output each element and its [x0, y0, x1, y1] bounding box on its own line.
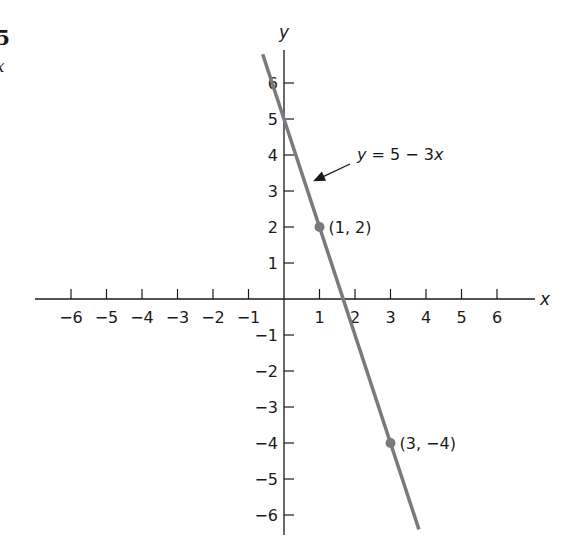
- y-tick-label: 4: [268, 146, 278, 165]
- y-tick-label: −2: [254, 362, 278, 381]
- annotation-arrow-shaft: [321, 164, 350, 178]
- data-series: [263, 54, 419, 529]
- y-tick-label: 1: [268, 254, 278, 273]
- data-point-label: (1, 2): [329, 218, 372, 237]
- x-tick-label: 1: [314, 308, 324, 327]
- data-points: (1, 2)(3, −4): [315, 218, 456, 453]
- data-point: [386, 438, 396, 448]
- x-tick-label: −2: [201, 308, 225, 327]
- x-axis-ticks: −6−5−4−3−2−1123456: [59, 289, 502, 327]
- y-tick-label: −4: [254, 434, 278, 453]
- x-tick-label: −4: [130, 308, 154, 327]
- y-tick-label: 2: [268, 218, 278, 237]
- y-tick-label: −5: [254, 470, 278, 489]
- y-tick-label: 3: [268, 182, 278, 201]
- y-tick-label: 5: [268, 110, 278, 129]
- x-tick-label: −6: [59, 308, 83, 327]
- y-tick-label: −3: [254, 398, 278, 417]
- x-tick-label: 5: [456, 308, 466, 327]
- data-point: [315, 222, 325, 232]
- x-tick-label: 4: [421, 308, 431, 327]
- line-chart: xy −6−5−4−3−2−1123456 654321−1−2−3−4−5−6…: [0, 0, 575, 560]
- x-tick-label: −3: [166, 308, 190, 327]
- axes: xy: [35, 22, 551, 535]
- equation-label: y = 5 − 3x: [356, 145, 444, 164]
- data-point-label: (3, −4): [400, 434, 456, 453]
- x-axis-label: x: [539, 289, 551, 309]
- x-tick-label: −1: [237, 308, 261, 327]
- x-tick-label: 6: [492, 308, 502, 327]
- y-axis-label: y: [278, 22, 290, 42]
- y-tick-label: −6: [254, 506, 278, 525]
- y-tick-label: −1: [254, 326, 278, 345]
- line-y-equals-5-minus-3x: [263, 54, 419, 529]
- x-tick-label: −5: [95, 308, 119, 327]
- x-tick-label: 3: [385, 308, 395, 327]
- annotations: y = 5 − 3x: [313, 145, 444, 181]
